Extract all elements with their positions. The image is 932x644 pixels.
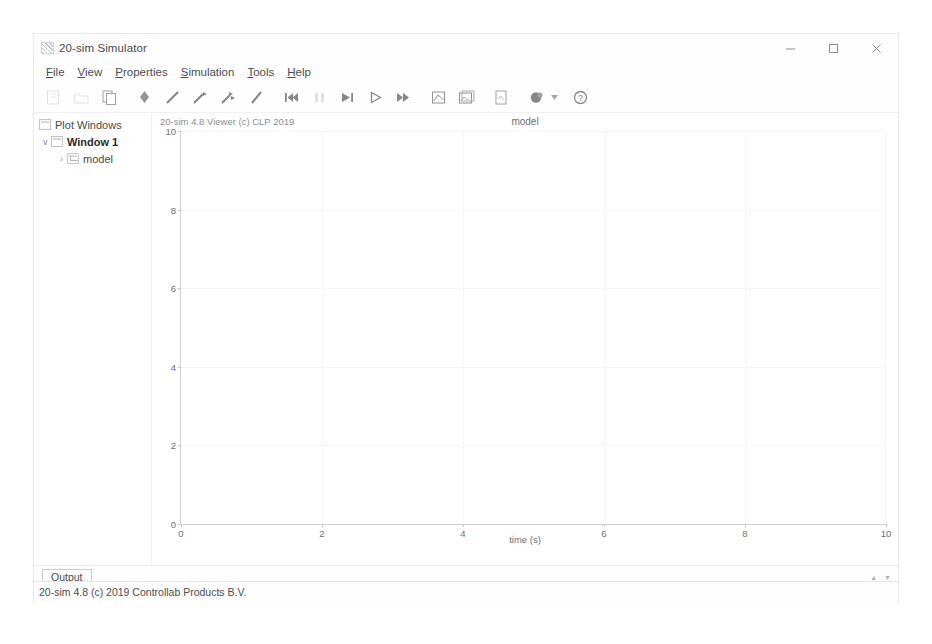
y-tick-mark: [178, 131, 181, 132]
pause-icon[interactable]: [307, 85, 331, 109]
rewind-to-start-icon[interactable]: [279, 85, 303, 109]
menu-label-rest: roperties: [123, 66, 168, 78]
maximize-icon: [828, 43, 839, 54]
chart-plot-area[interactable]: 02468100246810: [180, 131, 886, 525]
plot-windows-tree: Plot Windows ∨ Window 1 › model: [34, 113, 152, 565]
x-tick-mark: [745, 524, 746, 527]
arrow-down-icon[interactable]: [132, 85, 156, 109]
app-icon: [41, 42, 54, 54]
y-tick-mark: [178, 288, 181, 289]
gridline-horizontal: [181, 131, 886, 132]
close-button[interactable]: [855, 34, 898, 62]
multiple-plots-icon[interactable]: [454, 85, 478, 109]
y-tick-label: 6: [171, 283, 176, 294]
gridline-horizontal: [181, 445, 886, 446]
copy-icon[interactable]: [97, 85, 121, 109]
x-tick-mark: [322, 524, 323, 527]
y-tick-label: 2: [171, 440, 176, 451]
maximize-button[interactable]: [812, 34, 855, 62]
step-forward-icon[interactable]: [335, 85, 359, 109]
tree-label-plot-windows: Plot Windows: [55, 119, 122, 131]
new-icon[interactable]: [41, 85, 65, 109]
tree-label-model: model: [83, 153, 113, 165]
main-content: Plot Windows ∨ Window 1 › model 20-sim 4…: [34, 113, 898, 565]
tree-item-window-1[interactable]: ∨ Window 1: [34, 133, 151, 150]
scroll-down-icon[interactable]: ▼: [884, 574, 891, 581]
model-plot-icon: [67, 153, 79, 164]
minimize-icon: [785, 43, 796, 54]
x-tick-mark: [604, 524, 605, 527]
menu-label-rest: elp: [296, 66, 311, 78]
screenshot-root: 20-sim Simulator: [0, 0, 932, 644]
expander-window-1-icon[interactable]: ∨: [40, 137, 51, 147]
window-title: 20-sim Simulator: [59, 42, 147, 54]
menu-item-tools[interactable]: Tools: [241, 65, 281, 79]
chart-xlabel: time (s): [152, 534, 898, 545]
gridline-vertical: [463, 131, 464, 524]
copy-plot-icon[interactable]: [489, 85, 513, 109]
menu-label-rest: ile: [53, 66, 65, 78]
line-icon[interactable]: [244, 85, 268, 109]
plot-windows-icon: [39, 119, 51, 130]
gridline-horizontal: [181, 288, 886, 289]
pencil-double-arrow-icon[interactable]: [216, 85, 240, 109]
tree-item-plot-windows[interactable]: Plot Windows: [34, 116, 151, 133]
help-icon[interactable]: ?: [568, 85, 592, 109]
plot-properties-icon[interactable]: [426, 85, 450, 109]
toolbar: ?: [34, 82, 898, 113]
menu-bar: FileViewPropertiesSimulationToolsHelp: [34, 62, 898, 82]
gridline-horizontal: [181, 367, 886, 368]
plot-pane[interactable]: 20-sim 4.8 Viewer (c) CLP 2019 model 024…: [152, 113, 898, 565]
run-icon[interactable]: [363, 85, 387, 109]
application-window: 20-sim Simulator: [33, 33, 899, 603]
svg-text:?: ?: [577, 93, 582, 103]
open-icon[interactable]: [69, 85, 93, 109]
x-tick-mark: [886, 524, 887, 527]
tree-item-model[interactable]: › model: [34, 150, 151, 167]
x-tick-mark: [463, 524, 464, 527]
menu-label-rest: imulation: [188, 66, 234, 78]
y-tick-label: 0: [171, 519, 176, 530]
menu-label-rest: ools: [253, 66, 274, 78]
gridline-horizontal: [181, 210, 886, 211]
status-text: 20-sim 4.8 (c) 2019 Controllab Products …: [39, 586, 246, 598]
gridline-vertical: [745, 131, 746, 524]
menu-label-rest: iew: [85, 66, 102, 78]
tree-label-window-1: Window 1: [67, 136, 118, 148]
window-controls: [769, 34, 898, 62]
menu-item-properties[interactable]: Properties: [109, 65, 174, 79]
x-tick-mark: [181, 524, 182, 527]
chart-title: model: [152, 116, 898, 127]
pencil-icon[interactable]: [160, 85, 184, 109]
menu-item-help[interactable]: Help: [281, 65, 318, 79]
globe-icon[interactable]: [524, 85, 548, 109]
title-bar: 20-sim Simulator: [34, 34, 898, 62]
pencil-arrow-icon[interactable]: [188, 85, 212, 109]
menu-mnemonic: H: [287, 66, 295, 78]
window-icon: [51, 136, 63, 147]
y-tick-label: 10: [165, 126, 176, 137]
close-icon: [871, 43, 882, 54]
y-tick-mark: [178, 367, 181, 368]
fast-forward-icon[interactable]: [391, 85, 415, 109]
menu-item-file[interactable]: File: [40, 65, 72, 79]
gridline-vertical: [322, 131, 323, 524]
scroll-up-icon[interactable]: ▲: [870, 574, 877, 581]
y-tick-mark: [178, 445, 181, 446]
status-bar: 20-sim 4.8 (c) 2019 Controllab Products …: [34, 581, 898, 602]
menu-mnemonic: V: [78, 66, 85, 78]
menu-mnemonic: P: [115, 66, 123, 78]
menu-mnemonic: F: [46, 66, 53, 78]
y-tick-label: 4: [171, 361, 176, 372]
menu-item-simulation[interactable]: Simulation: [175, 65, 242, 79]
menu-item-view[interactable]: View: [72, 65, 110, 79]
globe-dropdown-caret-icon[interactable]: [550, 85, 559, 109]
y-tick-mark: [178, 210, 181, 211]
y-tick-label: 8: [171, 204, 176, 215]
gridline-vertical: [604, 131, 605, 524]
expander-model-icon[interactable]: ›: [56, 154, 67, 164]
minimize-button[interactable]: [769, 34, 812, 62]
